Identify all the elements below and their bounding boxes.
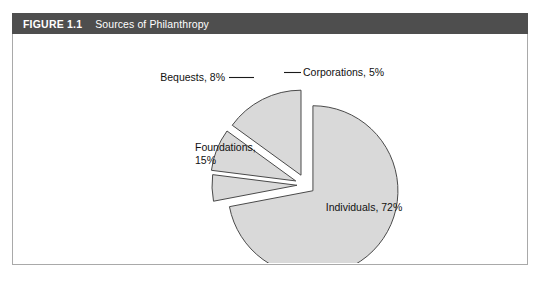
figure-body-frame: Individuals, 72%Corporations, 5%Bequests… — [12, 34, 528, 265]
figure-title: Sources of Philanthropy — [95, 18, 209, 30]
pie-label-individuals: Individuals, 72% — [326, 201, 402, 213]
figure-container: FIGURE 1.1 Sources of Philanthropy Indiv… — [12, 13, 528, 265]
pie-slices-group — [211, 90, 397, 263]
figure-header-bar: FIGURE 1.1 Sources of Philanthropy — [12, 13, 528, 34]
pie-label-bequests: Bequests, 8% — [160, 71, 225, 83]
pie-chart-svg: Individuals, 72%Corporations, 5%Bequests… — [13, 34, 527, 263]
pie-chart: Individuals, 72%Corporations, 5%Bequests… — [13, 34, 527, 263]
pie-label-corporations: Corporations, 5% — [303, 66, 384, 78]
figure-number: FIGURE 1.1 — [23, 18, 82, 30]
leader-lines-group — [229, 73, 301, 78]
